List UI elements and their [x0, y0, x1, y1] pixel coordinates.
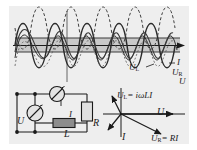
- figure-root: UL I UR U: [0, 0, 197, 150]
- ac-source-symbol: [27, 105, 43, 121]
- node-bottom-left: [15, 130, 19, 134]
- circuit-label-source: U: [17, 116, 24, 126]
- phasor-vector-I: [108, 114, 121, 130]
- wave-label-UL: UL: [129, 63, 139, 73]
- ammeter-symbol: [50, 87, 65, 102]
- wave-label-I: I: [177, 58, 180, 67]
- x-axis-arrow: [177, 43, 185, 49]
- resistor-symbol: [82, 102, 93, 121]
- figure-plate: UL I UR U: [9, 6, 189, 144]
- phasor-vector-UR: [121, 114, 161, 134]
- phasor-label-UL: UL= iωLI: [117, 91, 152, 101]
- circuit-label-current: I: [69, 110, 72, 119]
- leader-UL: [146, 64, 154, 67]
- inductor-symbol: [53, 119, 75, 128]
- phasor-label-I: I: [122, 132, 125, 142]
- phasor-label-UR: UR= RI: [151, 134, 178, 144]
- circuit-label-inductor: L: [64, 129, 70, 139]
- node-top-middle: [33, 92, 37, 96]
- phasor-label-U: U: [157, 107, 164, 117]
- node-bottom-middle: [33, 130, 37, 134]
- waveform-panel: [9, 6, 189, 84]
- node-top-left: [15, 92, 19, 96]
- circuit-panel: [9, 82, 101, 144]
